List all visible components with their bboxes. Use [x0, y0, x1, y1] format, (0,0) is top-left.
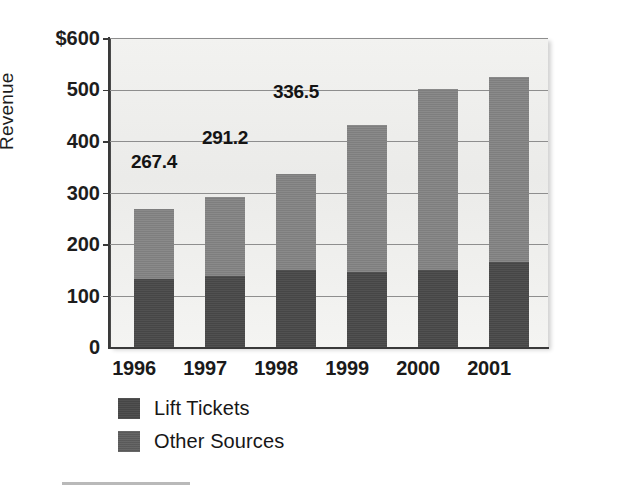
x-tick-label-1997: 1997 [170, 357, 240, 380]
chart-legend: Lift Tickets Other Sources [118, 392, 284, 458]
gridline-500 [110, 90, 548, 91]
gridline-300 [110, 193, 548, 194]
x-tick-label-2000: 2000 [383, 357, 453, 380]
y-tick-label-500: 500 [0, 78, 100, 101]
bar-segment-lift-tickets-2001[interactable] [489, 262, 529, 347]
bar-2000[interactable]: 501.4 [418, 89, 458, 347]
bar-2001[interactable]: 524.1 [489, 77, 529, 347]
x-axis-line [108, 347, 549, 349]
bar-segment-lift-tickets-1998[interactable] [276, 270, 316, 347]
legend-item-lift-tickets[interactable]: Lift Tickets [118, 392, 284, 425]
y-tick-label-600: $600 [0, 27, 100, 50]
bar-1996[interactable]: 267.4 [134, 209, 174, 347]
bar-segment-other-sources-1998[interactable] [276, 174, 316, 270]
bar-total-label-1997: 291.2 [202, 127, 248, 149]
gridline-100 [110, 296, 548, 297]
bar-segment-lift-tickets-1999[interactable] [347, 272, 387, 347]
revenue-stacked-bar-chart: Revenue $600 500 400 300 200 100 0 267.4 [0, 0, 631, 503]
y-tick-label-300: 300 [0, 182, 100, 205]
bar-segment-other-sources-2001[interactable] [489, 77, 529, 262]
bar-1997[interactable]: 291.2 [205, 197, 245, 347]
bar-1998[interactable]: 336.5 [276, 174, 316, 347]
bar-segment-lift-tickets-1996[interactable] [134, 279, 174, 348]
y-tick-label-400: 400 [0, 130, 100, 153]
legend-item-other-sources[interactable]: Other Sources [118, 425, 284, 458]
gridline-200 [110, 244, 548, 245]
y-tick-label-100: 100 [0, 285, 100, 308]
legend-label-lift-tickets: Lift Tickets [154, 397, 250, 420]
bar-segment-other-sources-1997[interactable] [205, 197, 245, 276]
x-tick-label-1999: 1999 [312, 357, 382, 380]
legend-swatch-other-sources-icon [118, 431, 140, 452]
footer-divider [62, 482, 190, 485]
y-axis-line [108, 37, 110, 348]
gridline-600 [110, 38, 548, 39]
plot-area: 267.4 291.2 336.5 431.8 501.4 524.1 [110, 38, 548, 347]
bar-segment-other-sources-1996[interactable] [134, 209, 174, 278]
y-tick-label-200: 200 [0, 233, 100, 256]
bar-total-label-1998: 336.5 [273, 81, 319, 103]
legend-swatch-lift-tickets-icon [118, 398, 140, 419]
bar-total-label-1996: 267.4 [131, 151, 177, 173]
bar-segment-lift-tickets-1997[interactable] [205, 276, 245, 347]
y-tick-label-0: 0 [0, 336, 100, 359]
bar-1999[interactable]: 431.8 [347, 125, 387, 347]
bar-segment-other-sources-2000[interactable] [418, 89, 458, 270]
bar-total-label-1999: 431.8 [344, 0, 390, 5]
bar-segment-lift-tickets-2000[interactable] [418, 270, 458, 347]
x-tick-label-1996: 1996 [99, 357, 169, 380]
x-tick-label-1998: 1998 [241, 357, 311, 380]
bar-segment-other-sources-1999[interactable] [347, 125, 387, 272]
x-tick-label-2001: 2001 [454, 357, 524, 380]
gridline-400 [110, 141, 548, 142]
legend-label-other-sources: Other Sources [154, 430, 284, 453]
